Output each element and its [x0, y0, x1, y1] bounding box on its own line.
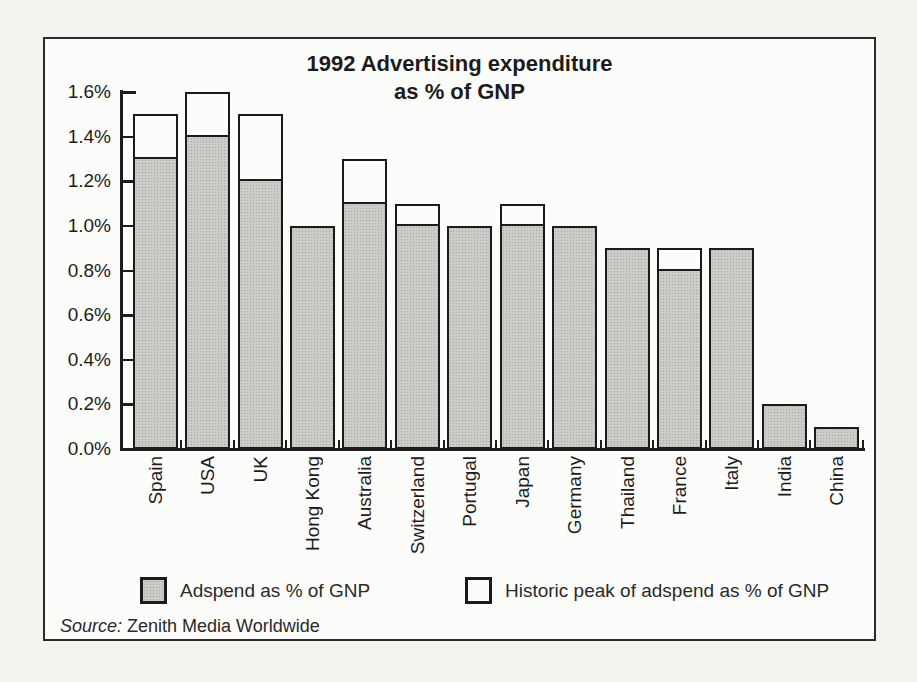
bar-peak-india: [762, 404, 807, 449]
x-label-spain: Spain: [146, 456, 165, 505]
bar-slot: [706, 92, 758, 449]
x-label-cell: Japan: [496, 456, 548, 584]
bar-peak-spain: [133, 114, 178, 449]
bar-adspend-japan: [502, 224, 543, 447]
legend-label-peak: Historic peak of adspend as % of GNP: [505, 580, 829, 602]
bar-peak-germany: [552, 226, 597, 449]
bar-slot: [129, 92, 181, 449]
x-tick-mark: [862, 440, 864, 449]
x-label-cell: Spain: [129, 456, 181, 584]
x-label-cell: Italy: [706, 456, 758, 584]
source-text: Zenith Media Worldwide: [127, 616, 320, 636]
x-label-cell: China: [810, 456, 862, 584]
bar-peak-portugal: [447, 226, 492, 449]
source-prefix: Source:: [60, 616, 122, 636]
y-tick-label: 1.2%: [45, 170, 111, 192]
x-label-cell: Thailand: [601, 456, 653, 584]
bar-peak-japan: [500, 204, 545, 449]
bar-adspend-thailand: [607, 248, 648, 447]
x-label-uk: UK: [251, 456, 270, 482]
x-label-thailand: Thailand: [618, 456, 637, 529]
bar-adspend-spain: [135, 157, 176, 447]
x-label-cell: Germany: [548, 456, 600, 584]
bar-peak-switzerland: [395, 204, 440, 449]
bar-slot: [339, 92, 391, 449]
source-note: Source: Zenith Media Worldwide: [60, 616, 320, 637]
bar-slot: [496, 92, 548, 449]
bar-slot: [181, 92, 233, 449]
x-label-cell: Switzerland: [391, 456, 443, 584]
bar-peak-hong-kong: [290, 226, 335, 449]
adspend-swatch-icon: [140, 577, 167, 604]
x-label-germany: Germany: [565, 456, 584, 534]
bar-slot: [653, 92, 705, 449]
y-tick-label: 0.4%: [45, 349, 111, 371]
x-label-portugal: Portugal: [460, 456, 479, 527]
y-tick-label: 0.2%: [45, 393, 111, 415]
bar-adspend-hong-kong: [292, 226, 333, 447]
chart-title-line1: 1992 Advertising expenditure: [45, 50, 874, 78]
bar-adspend-portugal: [449, 226, 490, 447]
bar-adspend-germany: [554, 226, 595, 447]
x-axis-labels: SpainUSAUKHong KongAustraliaSwitzerlandP…: [129, 456, 863, 584]
bar-slot: [548, 92, 600, 449]
bar-peak-italy: [709, 248, 754, 449]
bar-slot: [391, 92, 443, 449]
bar-slot: [286, 92, 338, 449]
x-label-cell: Australia: [339, 456, 391, 584]
bar-adspend-china: [816, 427, 857, 447]
bar-slot: [810, 92, 862, 449]
bar-adspend-italy: [711, 248, 752, 447]
y-tick-label: 1.0%: [45, 215, 111, 237]
x-label-india: India: [775, 456, 794, 497]
bar-adspend-uk: [240, 179, 281, 447]
bar-peak-uk: [238, 114, 283, 449]
bar-peak-usa: [185, 92, 230, 449]
y-tick-label: 0.0%: [45, 438, 111, 460]
bar-adspend-switzerland: [397, 224, 438, 447]
bar-slot: [234, 92, 286, 449]
bar-slot: [444, 92, 496, 449]
x-label-cell: USA: [181, 456, 233, 584]
bar-slot: [758, 92, 810, 449]
bar-adspend-australia: [344, 202, 385, 447]
scanned-page: { "chart_data": { "type": "bar", "title"…: [0, 0, 917, 682]
y-tick-label: 1.4%: [45, 126, 111, 148]
x-label-japan: Japan: [513, 456, 532, 508]
x-label-cell: India: [758, 456, 810, 584]
x-label-italy: Italy: [722, 456, 741, 491]
x-label-usa: USA: [198, 456, 217, 495]
x-label-cell: Portugal: [444, 456, 496, 584]
x-label-australia: Australia: [355, 456, 374, 530]
x-label-cell: France: [653, 456, 705, 584]
y-tick-label: 1.6%: [45, 81, 111, 103]
y-tick-label: 0.8%: [45, 260, 111, 282]
chart-panel: 1992 Advertising expenditure as % of GNP…: [43, 37, 876, 641]
legend-item-adspend: Adspend as % of GNP: [140, 577, 370, 604]
bar-peak-france: [657, 248, 702, 449]
x-label-switzerland: Switzerland: [408, 456, 427, 554]
bar-peak-china: [814, 427, 859, 449]
bar-adspend-india: [764, 404, 805, 447]
x-label-hong-kong: Hong Kong: [303, 456, 322, 551]
y-tick-label: 0.6%: [45, 304, 111, 326]
bar-adspend-france: [659, 269, 700, 447]
bars-area: [129, 92, 863, 449]
peak-swatch-icon: [465, 577, 492, 604]
x-label-cell: Hong Kong: [286, 456, 338, 584]
bar-peak-thailand: [605, 248, 650, 449]
x-label-france: France: [670, 456, 689, 515]
x-label-cell: UK: [234, 456, 286, 584]
bar-slot: [601, 92, 653, 449]
x-label-china: China: [827, 456, 846, 506]
bar-peak-australia: [342, 159, 387, 449]
bar-adspend-usa: [187, 135, 228, 447]
legend-label-adspend: Adspend as % of GNP: [180, 580, 370, 602]
legend-item-peak: Historic peak of adspend as % of GNP: [465, 577, 829, 604]
